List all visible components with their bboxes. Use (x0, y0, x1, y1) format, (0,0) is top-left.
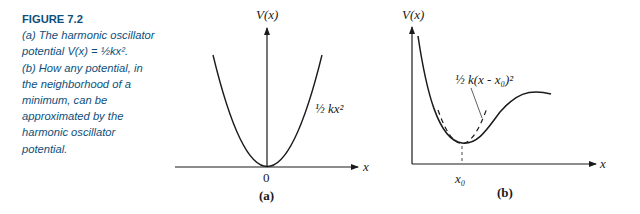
origin-label: 0 (263, 170, 270, 185)
y-axis-label: V(x) (256, 7, 278, 22)
figure-graphics: V(x) x 0 ½ kx² (a) V(x) x x₀ ½ k(x - x₀)… (0, 0, 640, 214)
panel-b: V(x) x x₀ ½ k(x - x₀)² (b) (402, 7, 606, 200)
minimum-label: x₀ (454, 171, 465, 186)
y-axis-label: V(x) (402, 7, 424, 22)
curve-label: ½ kx² (315, 101, 345, 116)
potential-curve (418, 36, 551, 143)
approx-label: ½ k(x - x₀)² (455, 72, 514, 87)
panel-label: (b) (497, 185, 513, 200)
label-leader-line (471, 88, 482, 118)
panel-label: (a) (259, 188, 274, 203)
x-axis-label: x (599, 156, 606, 171)
x-axis-label: x (362, 159, 369, 174)
panel-a: V(x) x 0 ½ kx² (a) (175, 7, 369, 203)
harmonic-approx-dashed (438, 108, 487, 144)
